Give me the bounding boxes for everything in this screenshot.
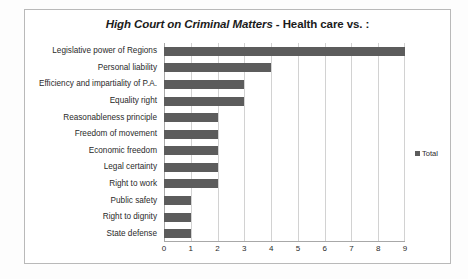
bar-row (164, 213, 405, 222)
value-axis-tick-6: 6 (322, 244, 326, 253)
category-label-5: Reasonableness principle (63, 113, 157, 123)
bar-row (164, 47, 405, 56)
chart-title-italic: High Court on Criminal Matters (106, 18, 273, 30)
value-axis-tick-3: 3 (242, 244, 246, 253)
legend-label-total: Total (422, 149, 438, 158)
bar-row (164, 80, 405, 89)
value-axis-tick-0: 0 (162, 244, 166, 253)
bar-4 (164, 97, 244, 106)
category-label-2: Personal liability (98, 63, 157, 73)
value-axis-tick-7: 7 (349, 244, 353, 253)
category-label-3: Efficiency and impartiality of P.A. (39, 79, 157, 89)
bar-3 (164, 80, 244, 89)
category-axis-labels: Legislative power of RegionsPersonal lia… (27, 43, 161, 242)
category-label-8: Legal certainty (104, 162, 157, 172)
bar-8 (164, 163, 218, 172)
bar-9 (164, 179, 218, 188)
category-label-11: Right to dignity (103, 212, 157, 222)
category-label-7: Economic freedom (89, 146, 157, 156)
page-background: High Court on Criminal Matters - Health … (0, 0, 468, 279)
category-label-9: Right to work (109, 179, 157, 189)
bar-5 (164, 113, 218, 122)
value-axis-labels: 0123456789 (164, 244, 405, 258)
legend-swatch-icon (415, 151, 420, 156)
bar-row (164, 97, 405, 106)
bar-row (164, 146, 405, 155)
bar-12 (164, 229, 191, 238)
value-axis-tick-2: 2 (215, 244, 219, 253)
bar-row (164, 179, 405, 188)
bar-row (164, 196, 405, 205)
category-label-6: Freedom of movement (75, 129, 157, 139)
plot-area (164, 43, 405, 242)
chart-frame: High Court on Criminal Matters - Health … (24, 9, 451, 264)
legend: Total (415, 149, 438, 158)
bar-row (164, 229, 405, 238)
bar-1 (164, 47, 405, 56)
value-axis-tick-1: 1 (189, 244, 193, 253)
bar-series-total (164, 43, 405, 242)
value-axis-tick-9: 9 (403, 244, 407, 253)
chart-title-plain: - Health care vs. : (273, 18, 369, 30)
value-axis-tick-8: 8 (376, 244, 380, 253)
bar-10 (164, 196, 191, 205)
bar-row (164, 63, 405, 72)
bar-11 (164, 213, 191, 222)
bar-row (164, 113, 405, 122)
value-axis-tick-5: 5 (296, 244, 300, 253)
category-label-1: Legislative power of Regions (52, 46, 157, 56)
bar-row (164, 163, 405, 172)
bar-6 (164, 130, 218, 139)
category-label-12: State defense (106, 229, 157, 239)
bar-2 (164, 63, 271, 72)
category-label-10: Public safety (111, 196, 157, 206)
bar-row (164, 130, 405, 139)
category-label-4: Equality right (110, 96, 157, 106)
value-axis-tick-4: 4 (269, 244, 273, 253)
bar-7 (164, 146, 218, 155)
chart-title: High Court on Criminal Matters - Health … (25, 18, 450, 30)
